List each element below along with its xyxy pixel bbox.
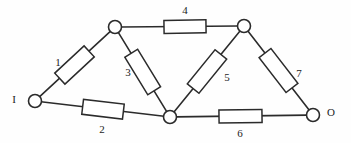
resistor-6 bbox=[219, 110, 262, 124]
node-top-left-node bbox=[109, 21, 122, 34]
resistor-4 bbox=[164, 20, 206, 34]
resistor-label-1: 1 bbox=[55, 56, 61, 68]
node-output-node bbox=[307, 109, 320, 122]
resistor-label-3: 3 bbox=[125, 66, 131, 78]
resistor-5 bbox=[187, 50, 226, 94]
resistor-label-5: 5 bbox=[224, 71, 230, 83]
resistor-label-4: 4 bbox=[182, 4, 188, 16]
resistor-label-2: 2 bbox=[99, 123, 105, 135]
resistor-body-7 bbox=[259, 49, 298, 93]
resistor-7 bbox=[259, 49, 298, 93]
resistor-label-7: 7 bbox=[296, 67, 302, 79]
resistor-body-6 bbox=[219, 110, 262, 124]
resistor-body-5 bbox=[187, 50, 226, 94]
resistor-2 bbox=[82, 99, 124, 119]
terminal-label-output: O bbox=[327, 106, 335, 118]
node-top-right-node bbox=[238, 20, 251, 33]
terminal-label-input: I bbox=[12, 93, 16, 105]
node-input-node bbox=[29, 95, 42, 108]
resistors-layer bbox=[55, 20, 298, 123]
resistor-body-4 bbox=[164, 20, 206, 34]
node-bottom-center-node bbox=[164, 111, 177, 124]
circuit-diagram-canvas: 1234567IO bbox=[0, 0, 351, 143]
circuit-diagram-svg: 1234567IO bbox=[0, 0, 351, 143]
resistor-body-2 bbox=[82, 99, 124, 119]
resistor-label-6: 6 bbox=[237, 127, 243, 139]
